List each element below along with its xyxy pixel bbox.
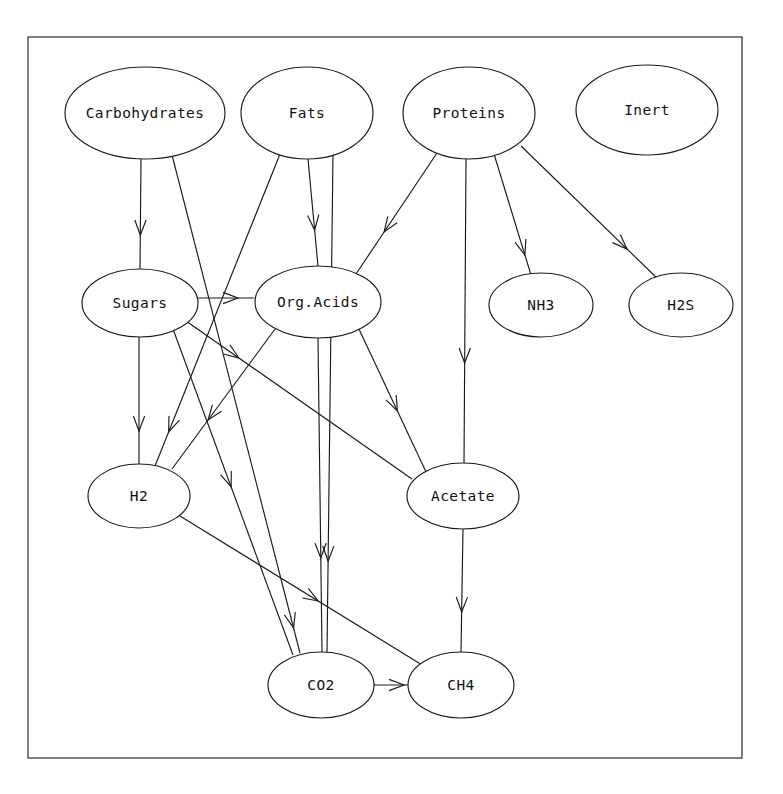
edge-proteins-to-nh3 xyxy=(494,154,531,275)
node-label: Proteins xyxy=(432,105,505,121)
pathway-graph: CarbohydratesFatsProteinsInertSugarsOrg.… xyxy=(0,0,783,794)
diagram-canvas: CarbohydratesFatsProteinsInertSugarsOrg.… xyxy=(0,0,783,794)
edge-h2-to-ch4 xyxy=(180,516,427,668)
edge-fats-to-orgacids xyxy=(308,159,319,266)
node-label: Fats xyxy=(289,105,326,121)
edge-line xyxy=(318,338,322,652)
node-inert[interactable]: Inert xyxy=(576,65,718,155)
node-orgacids[interactable]: Org.Acids xyxy=(255,266,381,338)
node-carbohydrates[interactable]: Carbohydrates xyxy=(65,67,225,159)
edge-co2-to-ch4 xyxy=(374,679,408,690)
edge-orgacids-to-acetate xyxy=(358,327,427,474)
node-sugars[interactable]: Sugars xyxy=(82,269,198,337)
edge-line xyxy=(308,159,318,266)
node-label: Acetate xyxy=(431,488,495,504)
node-label: Org.Acids xyxy=(277,294,359,310)
edge-line xyxy=(461,529,463,652)
node-acetate[interactable]: Acetate xyxy=(407,463,519,529)
edge-proteins-to-acetate xyxy=(459,159,470,463)
edge-line xyxy=(494,154,531,275)
edge-line xyxy=(140,159,141,269)
edge-acetate-to-ch4 xyxy=(456,529,467,652)
edge-orgacids-to-h2 xyxy=(172,325,278,469)
node-label: CO2 xyxy=(307,677,334,693)
node-label: Inert xyxy=(624,102,670,118)
edge-sugars-to-co2 xyxy=(173,329,293,655)
node-label: H2S xyxy=(667,297,694,313)
edge-line xyxy=(358,327,427,474)
edge-line xyxy=(352,153,437,280)
node-h2[interactable]: H2 xyxy=(88,464,190,528)
edge-line xyxy=(180,516,427,668)
edge-proteins-to-h2s xyxy=(521,146,660,281)
edge-carbohydrates-to-sugars xyxy=(135,159,146,269)
node-h2s[interactable]: H2S xyxy=(629,273,733,337)
node-label: NH3 xyxy=(527,297,554,313)
node-ch4[interactable]: CH4 xyxy=(408,652,514,718)
edge-fats-to-co2 xyxy=(323,153,334,653)
edge-line xyxy=(327,153,333,653)
node-proteins[interactable]: Proteins xyxy=(403,67,535,159)
edge-proteins-to-orgacids xyxy=(352,153,437,280)
nodes-layer: CarbohydratesFatsProteinsInertSugarsOrg.… xyxy=(65,65,733,718)
node-nh3[interactable]: NH3 xyxy=(489,273,593,337)
edge-line xyxy=(172,325,278,469)
edges-layer xyxy=(133,146,660,691)
edge-line xyxy=(521,146,660,281)
node-co2[interactable]: CO2 xyxy=(268,652,374,718)
edge-sugars-to-h2 xyxy=(133,337,144,464)
node-label: Sugars xyxy=(113,295,168,311)
edge-line xyxy=(173,329,293,655)
edge-sugars-to-orgacids xyxy=(196,292,254,303)
node-label: CH4 xyxy=(447,677,474,693)
node-label: Carbohydrates xyxy=(86,105,205,121)
edge-line xyxy=(464,159,466,463)
node-fats[interactable]: Fats xyxy=(241,67,373,159)
node-label: H2 xyxy=(130,488,148,504)
